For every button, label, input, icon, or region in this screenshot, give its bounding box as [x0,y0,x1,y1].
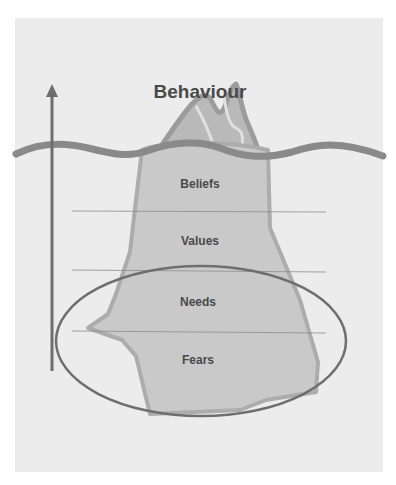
arrow-up-icon [46,84,58,371]
iceberg-diagram: Behaviour Beliefs Values Needs Fears [0,0,396,485]
layer-label-values: Values [181,234,219,248]
layer-label-beliefs: Beliefs [180,177,220,191]
title-behaviour: Behaviour [154,81,248,102]
layer-label-needs: Needs [180,295,216,309]
layer-label-fears: Fears [182,353,214,367]
separator-line [72,211,326,212]
